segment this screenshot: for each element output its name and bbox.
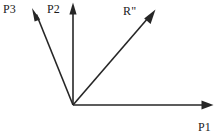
vector-p3-shaft bbox=[37, 15, 74, 106]
vector-label-p1: P1 bbox=[198, 121, 211, 132]
vector-r-double-prime-shaft bbox=[73, 18, 149, 106]
vector-label-p3: P3 bbox=[3, 3, 16, 15]
vector-diagram: P3 P2 R" P1 bbox=[0, 0, 219, 132]
vector-r-double-prime bbox=[73, 10, 156, 106]
vector-label-r-double-prime: R" bbox=[123, 5, 136, 17]
vector-p2 bbox=[69, 3, 76, 106]
vector-label-p2: P2 bbox=[47, 3, 60, 15]
vector-p2-arrowhead bbox=[69, 3, 76, 15]
vector-canvas bbox=[0, 0, 219, 132]
vector-p1-arrowhead bbox=[202, 101, 214, 110]
vector-p3 bbox=[32, 8, 73, 105]
vector-p3-arrowhead bbox=[32, 8, 40, 21]
vector-p1-axis bbox=[73, 101, 214, 110]
